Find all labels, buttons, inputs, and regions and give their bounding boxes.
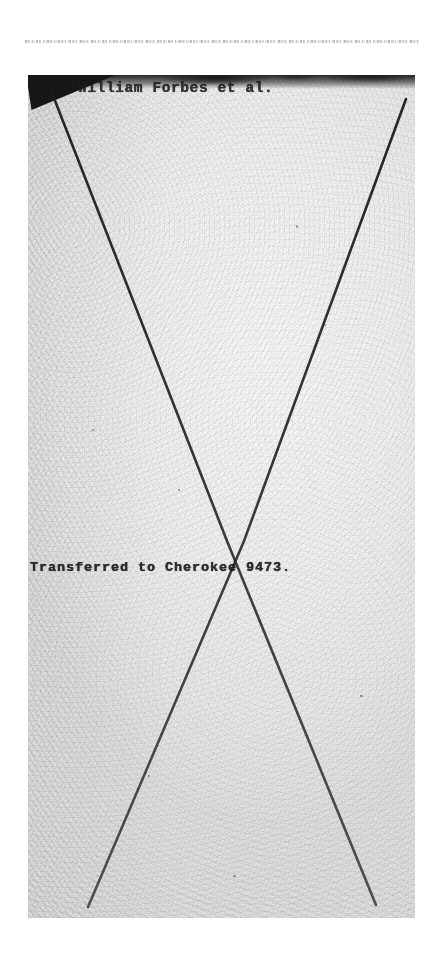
scan-speck xyxy=(360,695,363,697)
scan-speck xyxy=(233,875,236,877)
cancellation-x-icon xyxy=(28,75,415,918)
scan-separator-rule xyxy=(25,40,420,43)
scan-speck xyxy=(324,324,326,326)
card-header-text: William Forbes et al. xyxy=(78,80,273,96)
scan-speck xyxy=(148,775,150,777)
card-transfer-text: Transferred to Cherokee 9473. xyxy=(30,560,291,575)
scan-speck xyxy=(92,429,94,431)
scan-speck xyxy=(178,489,180,491)
x-stroke-ascending xyxy=(88,99,406,907)
scan-speck xyxy=(296,225,298,228)
x-stroke-descending xyxy=(52,93,376,905)
scan-page: William Forbes et al. Transferred to Che… xyxy=(0,0,441,973)
archival-card-scan: William Forbes et al. Transferred to Che… xyxy=(28,75,415,918)
